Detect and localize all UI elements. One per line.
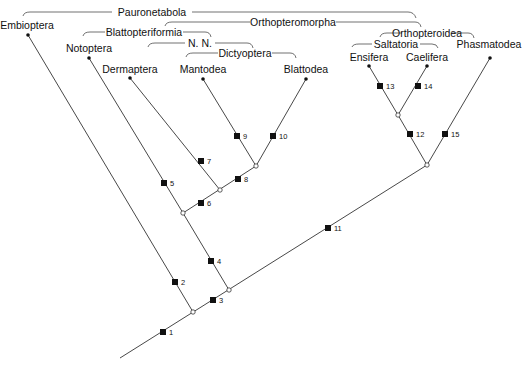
group-label-blattopteriformia: Blattopteriformia bbox=[106, 26, 183, 38]
apomorphy-15: 15 bbox=[451, 130, 459, 139]
taxon-notoptera: Notoptera bbox=[66, 42, 112, 54]
internal-nodes bbox=[181, 113, 429, 314]
group-label-dictyoptera: Dictyoptera bbox=[218, 47, 271, 59]
apomorphy-1: 1 bbox=[169, 328, 173, 337]
apomorphy-markers bbox=[160, 83, 448, 335]
group-label-pauronetabola: Pauronetabola bbox=[118, 6, 186, 18]
group-label-orthopteromorpha: Orthopteromorpha bbox=[250, 16, 336, 28]
taxon-blattodea: Blattodea bbox=[284, 63, 329, 75]
apomorphy-5: 5 bbox=[170, 179, 174, 188]
group-label-nn: N. N. bbox=[188, 37, 212, 49]
taxon-mantodea: Mantodea bbox=[180, 63, 227, 75]
apomorphy-7: 7 bbox=[207, 157, 211, 166]
apomorphy-2: 2 bbox=[181, 278, 185, 287]
group-label-saltatoria: Saltatoria bbox=[374, 38, 419, 50]
taxon-caelifera: Caelifera bbox=[406, 51, 448, 63]
cladogram: Pauronetabola Orthopteromorpha Blattopte… bbox=[0, 0, 526, 374]
apomorphy-6: 6 bbox=[207, 199, 211, 208]
taxon-dermaptera: Dermaptera bbox=[102, 63, 158, 75]
apomorphy-4: 4 bbox=[217, 257, 221, 266]
apomorphy-3: 3 bbox=[219, 296, 223, 305]
apomorphy-8: 8 bbox=[244, 175, 248, 184]
taxon-ensifera: Ensifera bbox=[350, 51, 389, 63]
taxon-embioptera: Embioptera bbox=[0, 19, 54, 31]
apomorphy-12: 12 bbox=[416, 130, 424, 139]
apomorphy-11: 11 bbox=[334, 224, 342, 233]
taxon-phasmatodea: Phasmatodea bbox=[457, 38, 522, 50]
apomorphy-10: 10 bbox=[279, 132, 287, 141]
apomorphy-14: 14 bbox=[424, 82, 432, 91]
apomorphy-13: 13 bbox=[386, 82, 394, 91]
apomorphy-9: 9 bbox=[243, 132, 247, 141]
